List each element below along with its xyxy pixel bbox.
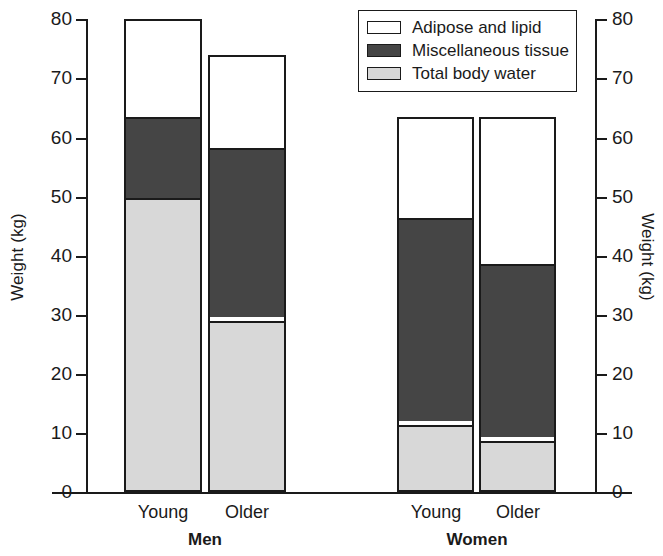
legend: Adipose and lipid Miscellaneous tissue T… — [358, 10, 577, 92]
bar-women-young — [397, 117, 474, 492]
stacked-bar-chart: Weight (kg) Weight (kg) 80 70 60 50 40 3… — [0, 0, 663, 556]
bar-segment-total-body-water — [399, 425, 472, 490]
bar-segment-total-body-water — [481, 441, 554, 490]
bar-segment-total-body-water — [210, 321, 284, 490]
bar-segment-miscellaneous — [210, 148, 284, 317]
bar-women-older — [479, 117, 556, 492]
legend-item-adipose-and-lipid: Adipose and lipid — [367, 16, 568, 39]
bar-segment-total-body-water — [126, 198, 200, 490]
x-group-label-women: Women — [392, 530, 562, 550]
legend-item-miscellaneous-tissue: Miscellaneous tissue — [367, 39, 568, 62]
legend-item-total-body-water: Total body water — [367, 62, 568, 85]
x-group-label-men: Men — [120, 530, 290, 550]
bar-men-young — [124, 19, 202, 492]
legend-swatch-icon-water — [367, 67, 401, 80]
x-category-label-women-older: Older — [463, 502, 573, 523]
legend-label-miscellaneous: Miscellaneous tissue — [412, 42, 569, 59]
legend-label-total-body-water: Total body water — [412, 65, 536, 82]
bar-segment-miscellaneous — [481, 264, 554, 437]
bar-men-older — [208, 55, 286, 492]
x-category-label-men-older: Older — [192, 502, 302, 523]
legend-swatch-icon-miscellaneous — [367, 44, 401, 57]
legend-swatch-icon-adipose — [367, 21, 401, 34]
bar-segment-miscellaneous — [399, 218, 472, 421]
legend-label-adipose: Adipose and lipid — [412, 19, 541, 36]
